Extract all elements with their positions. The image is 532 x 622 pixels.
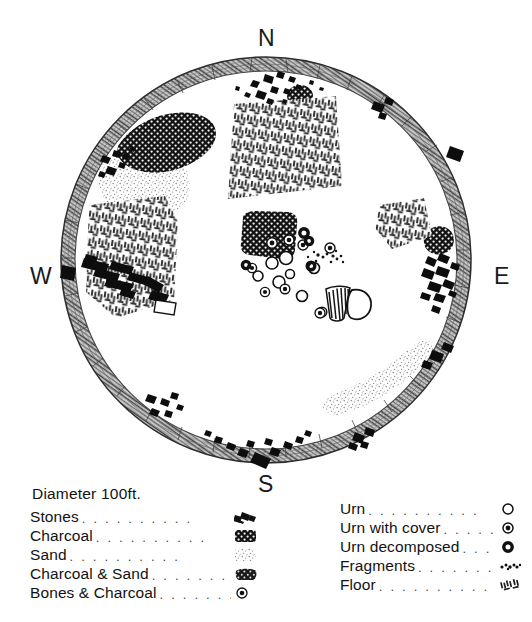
stones-swatch-icon [234,509,260,524]
fragments-symbol-icon [499,558,525,573]
legend-label-sand: Sand [30,546,67,564]
legend-dots: . . . . . . . . . . [443,523,496,536]
charcoal-sand-swatch-icon [234,566,260,581]
cardinal-label-south: S [258,473,274,496]
legend-label-floor: Floor [340,576,376,594]
legend-item-urn: Urn . . . . . . . . . . [340,500,525,518]
cardinal-label-north: N [258,27,275,50]
urn-symbol-icon [499,501,525,516]
legend-item-sand: Sand . . . . . . . . . . [30,546,260,564]
legend-dots: . . . . . . . . . . [462,542,496,555]
legend-label-fragments: Fragments [340,557,415,575]
stone-marker-east-upper [446,146,464,162]
legend-item-fragments: Fragments . . . . . . . . . . [340,557,525,575]
legend-dots: . . . . . . . . . . [368,504,496,517]
legend-label-urn-with-cover: Urn with cover [340,519,440,537]
floor-swatch-icon [499,577,525,592]
floor-area-east [375,198,432,249]
legend-diameter-title: Diameter 100ft. [32,485,260,503]
vessel-open-outline [347,290,371,320]
legend-left: Diameter 100ft. Stones . . . . . . . . .… [30,485,260,603]
legend-dots: . . . . . . . . . . [82,512,231,525]
legend-label-bones-and-charcoal: Bones & Charcoal [30,584,157,602]
legend-label-urn-decomposed: Urn decomposed [340,538,459,556]
urn-with-cover-symbol-icon [499,520,525,535]
cardinal-label-east: E [494,265,510,288]
legend-item-stones: Stones . . . . . . . . . . [30,508,260,526]
legend-item-urn-with-cover: Urn with cover . . . . . . . . . . [340,519,525,537]
stone-cluster-southwest [145,392,184,418]
bones-charcoal-marker [315,308,325,318]
legend-item-floor: Floor . . . . . . . . . . [340,576,525,594]
legend-dots: . . . . . . . . . . [160,588,231,601]
legend-label-stones: Stones [30,508,79,526]
legend-item-charcoal: Charcoal . . . . . . . . . . [30,527,260,545]
legend-label-charcoal-and-sand: Charcoal & Sand [30,565,149,583]
legend-label-urn: Urn [340,500,365,518]
legend-item-urn-decomposed: Urn decomposed . . . . . . . . . . [340,538,525,556]
legend-dots: . . . . . . . . . . [152,569,231,582]
legend-label-charcoal: Charcoal [30,527,93,545]
legend-item-bones-and-charcoal: Bones & Charcoal . . . . . . . . . . [30,584,260,602]
legend-right: Urn . . . . . . . . . . Urn with cover .… [340,500,525,595]
floor-area-north-central [228,96,342,199]
legend-dots: . . . . . . . . . . [96,531,231,544]
sand-swatch-icon [234,547,260,562]
legend-dots: . . . . . . . . . . [379,580,496,593]
legend-dots: . . . . . . . . . . [70,550,231,563]
legend-item-charcoal-and-sand: Charcoal & Sand . . . . . . . . . . [30,565,260,583]
charcoal-swatch-icon [234,528,260,543]
cardinal-label-west: W [30,265,52,288]
stone-block-west-lower [154,300,176,315]
urn-decomposed-symbol-icon [499,539,525,554]
bones-charcoal-swatch-icon [234,585,260,600]
legend-dots: . . . . . . . . . . [418,561,496,574]
vessel-conical-striped [326,286,350,321]
